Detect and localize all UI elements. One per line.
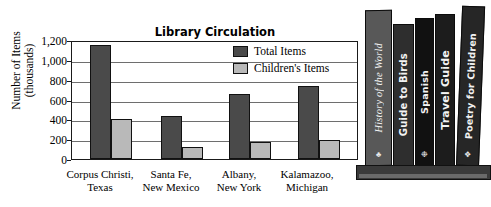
book-emblem-history-of-the-world: ♣ [376, 150, 381, 159]
chart-title: Library Circulation [120, 25, 310, 39]
legend: Total Items Children's Items [233, 43, 349, 77]
bar-children-corpus-christi [111, 119, 132, 159]
legend-swatch-childrens-items [233, 63, 248, 74]
bar-children-albany [250, 142, 271, 159]
library-circulation-figure: Number of Items (thousands) 1,200 1,000 … [0, 0, 491, 207]
legend-swatch-total-items [233, 46, 248, 57]
y-tick-label-800: 800 [7, 76, 67, 88]
legend-item-childrens-items: Children's Items [233, 60, 349, 76]
y-tick-label-600: 600 [7, 96, 67, 108]
y-tick-label-400: 400 [7, 115, 67, 127]
book-title-travel-guide: Travel Guide [439, 50, 452, 130]
book-travel-guide: Travel Guide [435, 14, 455, 166]
legend-label-total-items: Total Items [254, 45, 306, 57]
bookshelf-illustration: History of the World ♣ Guide to Birds Sp… [356, 0, 491, 180]
bar-total-albany [229, 94, 250, 159]
y-tick-label-1200: 1,200 [7, 36, 67, 48]
bar-total-kalamazoo [298, 86, 319, 159]
book-emblem-spanish: ❉ [421, 150, 428, 159]
book-title-poetry-for-children: Poetry for Children [463, 33, 478, 139]
y-tick-label-1000: 1,000 [7, 56, 67, 68]
book-spanish: Spanish ❉ [415, 18, 434, 166]
book-guide-to-birds: Guide to Birds [393, 24, 414, 166]
x-category-kalamazoo: Kalamazoo, Michigan [262, 168, 352, 193]
book-title-spanish: Spanish [419, 70, 430, 114]
bar-children-santa-fe [182, 147, 203, 159]
legend-item-total-items: Total Items [233, 43, 349, 59]
book-history-of-the-world: History of the World ♣ [365, 10, 392, 166]
gridline-800 [72, 82, 357, 83]
y-tick-mark [67, 160, 71, 161]
y-tick-label-200: 200 [7, 135, 67, 147]
book-title-guide-to-birds: Guide to Birds [398, 53, 409, 136]
bar-total-santa-fe [161, 116, 182, 159]
book-title-history-of-the-world: History of the World [373, 43, 384, 133]
y-tick-label-0: 0 [7, 155, 67, 167]
book-emblem-poetry-for-children: ❖ [464, 150, 471, 159]
legend-label-childrens-items: Children's Items [254, 62, 329, 74]
book-poetry-for-children: Poetry for Children ❖ [456, 6, 485, 167]
bar-total-corpus-christi [90, 45, 111, 159]
bar-children-kalamazoo [319, 140, 340, 159]
shelf-board-edge [359, 174, 487, 178]
